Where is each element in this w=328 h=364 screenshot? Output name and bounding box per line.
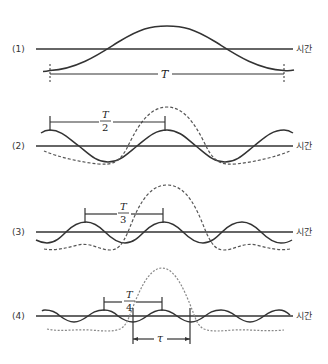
time-axis-label-1: 시간: [296, 44, 312, 54]
period-label-T: T: [161, 68, 170, 81]
pulse-width-label-tau: τ: [157, 332, 164, 345]
third-period-denominator: 3: [120, 214, 126, 225]
panel-2: (2) 시간 T 2: [12, 107, 312, 164]
sum-wave-2: [44, 107, 290, 164]
sum-wave-3: [44, 185, 290, 250]
half-period-denominator: 2: [102, 122, 108, 133]
pulse-width-arrow-left: [133, 337, 138, 341]
quarter-period-denominator: 4: [126, 302, 132, 313]
time-axis-label-2: 시간: [296, 141, 312, 151]
panel-4-label: (4): [12, 311, 25, 321]
third-period-numerator: T: [120, 201, 128, 212]
time-axis-label-4: 시간: [296, 311, 312, 321]
panel-4: (4) 시간 T 4 τ: [12, 268, 312, 345]
panel-2-label: (2): [12, 141, 25, 151]
half-period-numerator: T: [102, 109, 110, 120]
time-axis-label-3: 시간: [296, 227, 312, 237]
quarter-period-numerator: T: [126, 289, 134, 300]
panel-1-label: (1): [12, 44, 25, 54]
panel-1: (1) 시간 T: [12, 26, 312, 84]
fourier-synthesis-diagram: (1) 시간 T (2) 시간 T 2 (3) 시간: [0, 0, 328, 364]
panel-3-label: (3): [12, 227, 25, 237]
panel-3: (3) 시간 T 3: [12, 185, 312, 250]
pulse-width-arrow-right: [185, 337, 190, 341]
